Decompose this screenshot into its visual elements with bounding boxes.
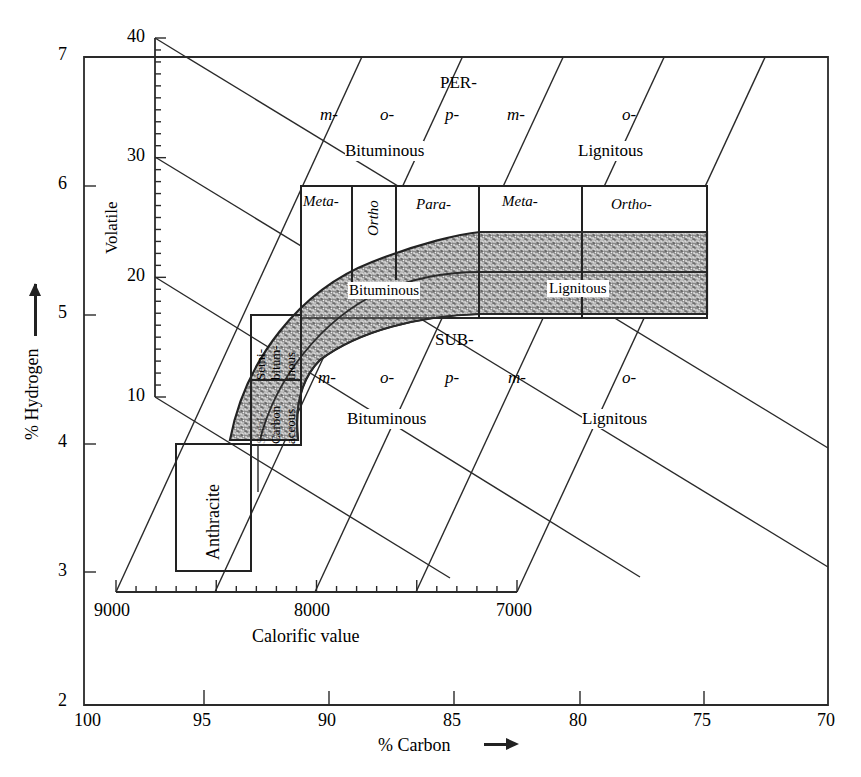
hydrogen-axis-ticks xyxy=(84,186,96,572)
band-bituminous-label: Bituminous xyxy=(348,282,420,299)
volatile-tick-40: 40 xyxy=(127,26,145,47)
right-arrow-icon xyxy=(484,743,508,746)
carbon-tick-90: 90 xyxy=(318,710,336,731)
hydrogen-axis-label: % Hydrogen xyxy=(22,349,43,440)
carbon-tick-85: 85 xyxy=(443,710,461,731)
volatile-axis-label: Volatile xyxy=(102,201,122,254)
sub-subrank-m2: m- xyxy=(508,368,526,388)
sub-bituminous-label: Bituminous xyxy=(347,409,426,429)
per-subrank-m1: m- xyxy=(320,105,338,125)
band-header-para: Para- xyxy=(416,196,451,213)
carbon-axis-label: % Carbon xyxy=(378,735,450,756)
sub-subrank-o1: o- xyxy=(380,368,394,388)
hydrogen-tick-2: 2 xyxy=(58,690,67,711)
semi-bituminous-label: Semi- bitum- inous xyxy=(253,345,298,380)
per-subrank-o1: o- xyxy=(380,105,394,125)
carbon-axis-ticks xyxy=(204,690,704,705)
band-header-meta-bituminous: Meta- xyxy=(303,193,339,210)
carbon-tick-80: 80 xyxy=(569,710,587,731)
semi-carbonaceous-label: Semi- Carbon aceous xyxy=(253,406,298,444)
hydrogen-tick-5: 5 xyxy=(58,302,67,323)
band-lignitous-label: Lignitous xyxy=(547,280,609,297)
carbon-tick-95: 95 xyxy=(193,710,211,731)
sub-prefix: SUB- xyxy=(435,330,474,350)
semi-bituminous-line-1: Semi- xyxy=(253,345,268,380)
per-subrank-m2: m- xyxy=(507,105,525,125)
calorific-axis xyxy=(116,580,517,592)
semi-carbonaceous-line-3: aceous xyxy=(283,406,298,444)
hydrogen-tick-7: 7 xyxy=(58,44,67,65)
volatile-axis xyxy=(155,38,166,397)
volatile-tick-30: 30 xyxy=(127,145,145,166)
calorific-axis-label: Calorific value xyxy=(252,626,359,647)
right-arrow-head-icon xyxy=(506,738,519,750)
sub-lignitous-label: Lignitous xyxy=(582,409,647,429)
semi-carbonaceous-line-1: Semi- xyxy=(253,406,268,444)
per-bituminous-label: Bituminous xyxy=(345,141,424,161)
up-arrow-head-icon xyxy=(29,283,41,296)
carbon-tick-75: 75 xyxy=(693,710,711,731)
per-lignitous-label: Lignitous xyxy=(578,141,643,161)
semi-carbonaceous-line-2: Carbon xyxy=(268,406,283,444)
carbon-tick-70: 70 xyxy=(817,710,835,731)
calorific-tick-7000: 7000 xyxy=(496,600,532,621)
calorific-tick-8000: 8000 xyxy=(294,600,330,621)
band-header-meta-lignitous: Meta- xyxy=(502,193,538,210)
hydrogen-tick-3: 3 xyxy=(58,560,67,581)
volatile-tick-20: 20 xyxy=(127,265,145,286)
hydrogen-tick-6: 6 xyxy=(58,173,67,194)
band-header-ortho-lignitous: Ortho- xyxy=(611,196,652,213)
anthracite-label: Anthracite xyxy=(203,484,224,560)
volatile-tick-10: 10 xyxy=(127,385,145,406)
sub-subrank-o2: o- xyxy=(622,368,636,388)
sub-subrank-m1: m- xyxy=(318,368,336,388)
semi-bituminous-line-2: bitum- xyxy=(268,345,283,380)
band-header-ortho-bituminous: Ortho xyxy=(365,200,382,236)
semi-bituminous-line-3: inous xyxy=(283,345,298,380)
per-subrank-o2: o- xyxy=(622,105,636,125)
calorific-tick-9000: 9000 xyxy=(94,600,130,621)
volatile-line-40-top xyxy=(155,38,186,57)
sub-subrank-p: p- xyxy=(445,368,459,388)
per-subrank-p: p- xyxy=(445,105,459,125)
hydrogen-tick-4: 4 xyxy=(58,431,67,452)
carbon-tick-100: 100 xyxy=(74,710,101,731)
per-prefix: PER- xyxy=(440,73,477,93)
